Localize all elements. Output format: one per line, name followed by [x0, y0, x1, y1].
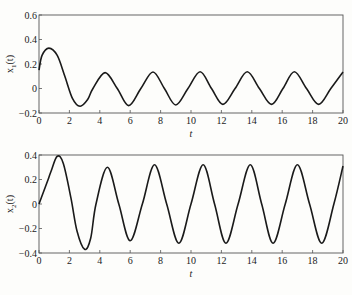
y-tick-label: 0.2 — [25, 59, 38, 70]
x-tick-label: 6 — [128, 115, 133, 126]
y-tick-label: 0.2 — [25, 174, 38, 185]
x-tick-label: 16 — [277, 255, 287, 266]
x-tick-label: 20 — [338, 255, 348, 266]
x-tick-label: 4 — [97, 255, 102, 266]
x-axis-label: t — [190, 268, 193, 279]
x-tick-label: 18 — [308, 115, 318, 126]
x-tick-label: 2 — [67, 115, 72, 126]
x-tick-label: 10 — [186, 115, 196, 126]
x-tick-label: 10 — [186, 255, 196, 266]
x-tick-label: 12 — [216, 115, 226, 126]
x-tick-label: 16 — [277, 115, 287, 126]
series-line — [39, 156, 343, 250]
x-tick-label: 14 — [247, 255, 257, 266]
series-line — [39, 48, 343, 106]
x-tick-label: 0 — [37, 255, 42, 266]
x-tick-label: 0 — [37, 115, 42, 126]
x-tick-label: 2 — [67, 255, 72, 266]
x-tick-label: 12 — [216, 255, 226, 266]
y-tick-label: −0.2 — [19, 108, 37, 119]
y-axis-label: x2(t) — [4, 195, 18, 213]
chart-canvas: 02468101214161820−0.200.20.40.6tx1(t) 02… — [0, 0, 352, 295]
chart-panel-x2: 02468101214161820−0.4−0.200.20.4tx2(t) — [4, 150, 348, 280]
y-axis-label: x1(t) — [4, 55, 18, 73]
x-tick-label: 14 — [247, 115, 257, 126]
y-tick-label: 0.4 — [25, 34, 38, 45]
y-tick-label: −0.2 — [19, 223, 37, 234]
x-tick-label: 20 — [338, 115, 348, 126]
x-tick-label: 6 — [128, 255, 133, 266]
y-tick-label: 0 — [32, 83, 37, 94]
y-tick-label: 0.6 — [25, 10, 38, 21]
x-tick-label: 8 — [158, 115, 163, 126]
y-tick-label: 0 — [32, 199, 37, 210]
x-tick-label: 18 — [308, 255, 318, 266]
y-tick-label: −0.4 — [19, 248, 37, 259]
chart-panel-x1: 02468101214161820−0.200.20.40.6tx1(t) — [4, 10, 348, 140]
plot-frame — [39, 15, 343, 113]
x-axis-label: t — [190, 128, 193, 139]
x-tick-label: 4 — [97, 115, 102, 126]
y-tick-label: 0.4 — [25, 150, 38, 161]
x-tick-label: 8 — [158, 255, 163, 266]
